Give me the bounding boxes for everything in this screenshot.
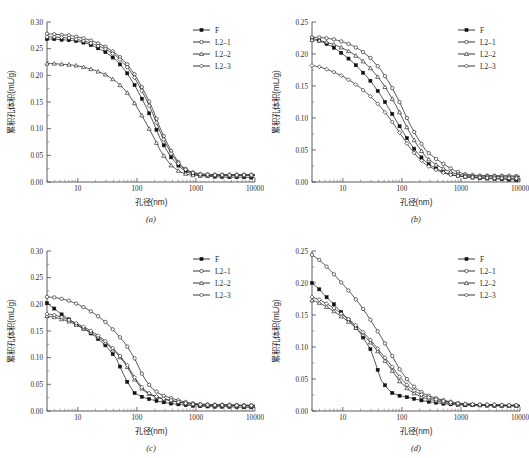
data-marker [162, 144, 165, 147]
x-axis-title: 孔径(nm) [400, 426, 433, 436]
data-marker [354, 54, 358, 58]
data-marker [170, 156, 173, 159]
x-tick-label: 10000 [511, 185, 529, 193]
data-marker [133, 392, 136, 395]
data-marker [45, 312, 49, 316]
data-marker [74, 302, 77, 305]
data-marker [200, 28, 203, 31]
data-marker [89, 310, 92, 313]
y-tick-label: 0.05 [30, 152, 43, 160]
x-tick-label: 10000 [246, 185, 264, 193]
data-marker [310, 295, 314, 299]
data-marker [391, 112, 394, 115]
data-marker [200, 257, 203, 260]
data-marker [332, 46, 335, 49]
data-marker [369, 56, 372, 59]
data-marker [398, 100, 401, 103]
data-marker [465, 64, 469, 68]
data-marker [383, 74, 386, 77]
legend-label: L2–3 [480, 291, 496, 300]
y-tick-label: 0.00 [30, 408, 43, 416]
y-tick-label: 0.30 [30, 19, 43, 27]
x-tick-label: 100 [397, 185, 408, 193]
legend-label: L2–3 [215, 62, 231, 71]
data-marker [376, 89, 379, 92]
data-marker [413, 147, 416, 150]
data-marker [434, 163, 438, 167]
chart-panel-c: 0.000.050.100.150.200.250.30101001000100… [0, 229, 264, 458]
data-marker [354, 298, 357, 301]
data-marker [332, 303, 335, 306]
data-marker [111, 77, 115, 81]
data-marker [133, 84, 136, 87]
data-marker [398, 394, 401, 397]
data-marker [398, 125, 401, 128]
data-marker [383, 384, 386, 387]
data-marker [162, 401, 165, 404]
y-tick-label: 0.00 [30, 179, 43, 187]
data-marker [412, 130, 415, 133]
x-tick-label: 1000 [189, 185, 204, 193]
data-marker [140, 395, 143, 398]
data-marker [339, 40, 342, 43]
data-marker [67, 299, 70, 302]
data-marker [346, 49, 350, 53]
data-marker [465, 40, 468, 43]
data-marker [325, 265, 328, 268]
legend-label: L2–1 [215, 267, 231, 276]
series-line [312, 40, 520, 177]
chart-panel-a: 0.000.050.100.150.200.250.30101001000100… [0, 0, 264, 229]
chart-panel-b: 0.000.050.100.150.200.2510100100010000孔径… [265, 0, 529, 229]
data-marker [465, 269, 468, 272]
data-marker [354, 46, 357, 49]
x-tick-label: 10 [339, 414, 347, 422]
data-marker [317, 298, 321, 302]
data-marker [155, 128, 158, 131]
data-marker [60, 297, 63, 300]
legend-label: L2–2 [480, 50, 496, 59]
y-tick-label: 0.05 [30, 381, 43, 389]
y-tick-label: 0.00 [295, 179, 308, 187]
data-marker [412, 385, 415, 388]
data-marker [361, 307, 364, 310]
data-marker [442, 162, 445, 165]
data-marker [126, 345, 129, 348]
data-marker [96, 315, 99, 318]
legend-label: L2–2 [480, 279, 496, 288]
data-marker [325, 302, 329, 306]
y-tick-label: 0.20 [295, 51, 308, 59]
legend-label: F [480, 26, 484, 35]
y-axis-title: 累积孔体积(mL/g) [6, 70, 16, 134]
legend-label: L2–1 [480, 267, 496, 276]
x-tick-label: 100 [132, 185, 143, 193]
y-tick-label: 0.20 [295, 280, 308, 288]
data-marker [347, 57, 350, 60]
data-marker [465, 293, 469, 297]
x-tick-label: 10 [74, 185, 82, 193]
data-series [310, 64, 520, 181]
data-marker [154, 141, 158, 145]
legend-label: F [480, 255, 484, 264]
data-marker [325, 296, 328, 299]
legend-label: L2–3 [215, 291, 231, 300]
legend-label: L2–3 [480, 62, 496, 71]
x-tick-label: 10 [74, 414, 82, 422]
data-marker [405, 125, 409, 129]
y-tick-label: 0.10 [30, 125, 43, 133]
y-tick-label: 0.25 [295, 19, 308, 27]
data-marker [383, 342, 386, 345]
series-line [312, 66, 520, 179]
x-tick-label: 1000 [189, 414, 204, 422]
panel-label: (d) [411, 443, 421, 453]
data-marker [405, 377, 408, 380]
data-marker [52, 313, 56, 317]
x-axis-title: 孔径(nm) [400, 197, 433, 207]
data-series [310, 295, 520, 407]
data-marker [200, 40, 203, 43]
y-tick-label: 0.05 [295, 147, 308, 155]
data-marker [405, 116, 408, 119]
data-marker [155, 390, 158, 393]
data-marker [405, 137, 408, 140]
data-marker [325, 67, 329, 71]
y-tick-label: 0.25 [295, 248, 308, 256]
